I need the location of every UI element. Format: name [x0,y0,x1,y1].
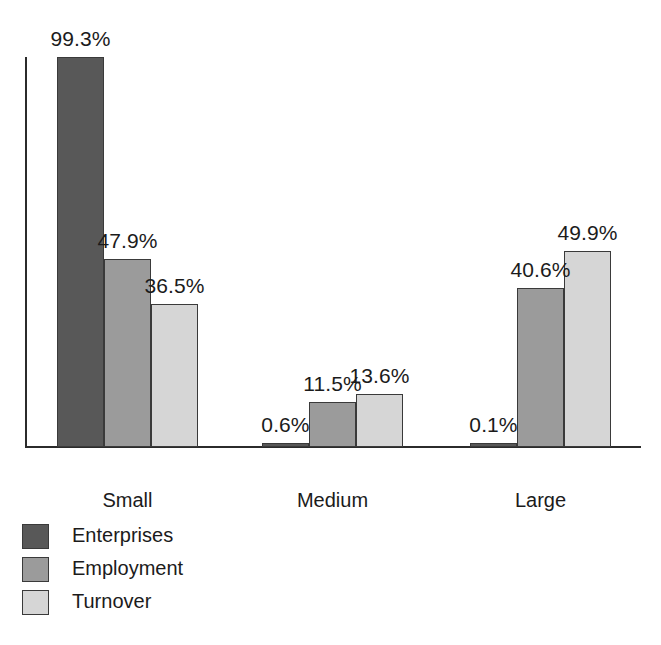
value-label-small-turnover: 36.5% [130,275,220,296]
bar-large-enterprises [470,443,517,447]
category-label-large: Large [461,489,621,511]
value-label-small-enterprises: 99.3% [36,28,126,49]
bar-medium-turnover [356,394,403,447]
legend-label-enterprises: Enterprises [72,521,173,549]
value-label-medium-turnover: 13.6% [335,365,425,386]
legend-label-turnover: Turnover [72,587,151,615]
category-label-small: Small [48,489,208,511]
y-axis-line [25,57,27,448]
bar-small-enterprises [57,57,104,447]
bottom-caption [86,632,646,645]
value-label-medium-enterprises: 0.6% [241,414,331,435]
value-label-large-enterprises: 0.1% [449,414,539,435]
bar-medium-enterprises [262,443,309,447]
bar-small-turnover [151,304,198,447]
legend-swatch-turnover [22,590,49,615]
value-label-large-turnover: 49.9% [543,222,633,243]
legend-swatch-employment [22,557,49,582]
value-label-small-employment: 47.9% [83,230,173,251]
legend-swatch-enterprises [22,524,49,549]
legend-label-employment: Employment [72,554,183,582]
category-label-medium: Medium [253,489,413,511]
bar-chart: 99.3%47.9%36.5%0.6%11.5%13.6%0.1%40.6%49… [0,0,661,645]
bar-large-turnover [564,251,611,447]
value-label-large-employment: 40.6% [496,259,586,280]
